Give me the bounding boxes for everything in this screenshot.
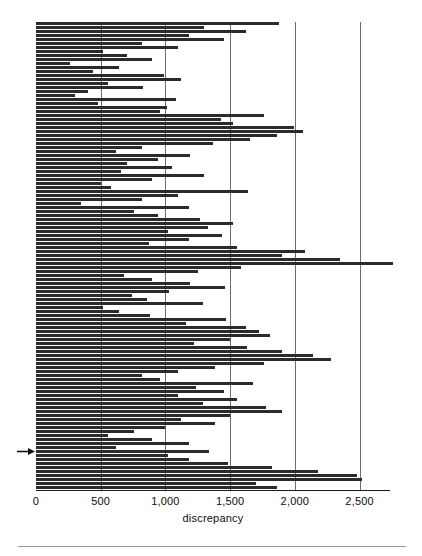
bar	[36, 22, 279, 25]
bar	[36, 102, 98, 105]
bar	[36, 422, 215, 425]
bar	[36, 462, 228, 465]
bar	[36, 162, 127, 165]
bar	[36, 430, 134, 433]
bar	[36, 130, 303, 133]
bar	[36, 166, 172, 169]
x-axis-label: discrepancy	[36, 512, 390, 524]
bar	[36, 466, 272, 469]
bar	[36, 178, 152, 181]
bar	[36, 154, 190, 157]
bar	[36, 230, 168, 233]
bar	[36, 274, 124, 277]
bar	[36, 158, 158, 161]
bar	[36, 258, 340, 261]
bar	[36, 390, 224, 393]
bar	[36, 214, 158, 217]
bar	[36, 206, 189, 209]
bar	[36, 306, 103, 309]
row-arrow-marker-icon	[17, 447, 36, 456]
bar	[36, 142, 213, 145]
bar	[36, 342, 194, 345]
bar	[36, 414, 230, 417]
bar	[36, 58, 152, 61]
bar	[36, 50, 103, 53]
bar	[36, 354, 313, 357]
bar	[36, 62, 70, 65]
bar	[36, 338, 230, 341]
bar	[36, 86, 143, 89]
bar	[36, 286, 225, 289]
bar	[36, 386, 196, 389]
bar	[36, 226, 208, 229]
bar	[36, 54, 127, 57]
bar	[36, 202, 81, 205]
bar	[36, 398, 237, 401]
bar	[36, 222, 233, 225]
bar	[36, 122, 233, 125]
bar	[36, 334, 270, 337]
bar	[36, 238, 189, 241]
bar	[36, 194, 178, 197]
bar	[36, 438, 152, 441]
bar	[36, 70, 93, 73]
bar	[36, 406, 266, 409]
bar	[36, 182, 101, 185]
bar	[36, 470, 318, 473]
bar	[36, 402, 203, 405]
bar	[36, 322, 186, 325]
bar	[36, 266, 241, 269]
bar	[36, 30, 246, 33]
footer-divider	[18, 546, 406, 547]
bar	[36, 454, 168, 457]
bar	[36, 434, 108, 437]
bar	[36, 174, 204, 177]
bar	[36, 378, 160, 381]
bar	[36, 34, 189, 37]
plot-area	[36, 22, 390, 490]
bar	[36, 326, 246, 329]
bar	[36, 410, 282, 413]
bar	[36, 246, 237, 249]
bar	[36, 234, 222, 237]
x-tick-500: 500	[91, 495, 110, 507]
bar	[36, 66, 119, 69]
bar	[36, 250, 305, 253]
bar	[36, 146, 142, 149]
bar	[36, 394, 178, 397]
bar	[36, 126, 294, 129]
bar	[36, 82, 108, 85]
bar	[36, 90, 88, 93]
bar	[36, 474, 357, 477]
bar	[36, 170, 121, 173]
bar	[36, 186, 111, 189]
bar	[36, 270, 198, 273]
bar	[36, 318, 226, 321]
bar	[36, 310, 119, 313]
bar	[36, 218, 200, 221]
bar	[36, 46, 178, 49]
bar	[36, 294, 132, 297]
bar	[36, 486, 277, 489]
discrepancy-bar-chart-figure: 05001,0001,5002,0002,500 discrepancy	[0, 0, 422, 556]
bar	[36, 114, 264, 117]
bar	[36, 38, 224, 41]
bar	[36, 346, 247, 349]
bar	[36, 350, 282, 353]
bar	[36, 482, 256, 485]
bar	[36, 358, 331, 361]
bar	[36, 290, 169, 293]
bar	[36, 446, 116, 449]
bar	[36, 254, 282, 257]
x-tick-2500: 2,500	[345, 495, 374, 507]
bar	[36, 374, 142, 377]
bar	[36, 442, 189, 445]
x-axis-line	[36, 490, 390, 491]
bar	[36, 366, 215, 369]
bar	[36, 382, 253, 385]
bar	[36, 262, 393, 265]
bar	[36, 42, 142, 45]
x-tick-0: 0	[33, 495, 39, 507]
bar	[36, 94, 75, 97]
bar	[36, 242, 149, 245]
